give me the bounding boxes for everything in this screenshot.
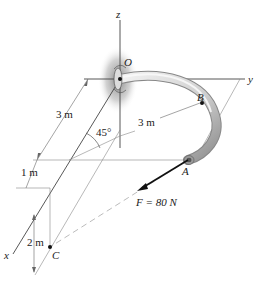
y-axis-label: y bbox=[247, 73, 253, 85]
force-label: F = 80 N bbox=[135, 196, 177, 208]
dimension-3m-x: 3 m bbox=[56, 108, 73, 120]
x-axis-label: x bbox=[3, 249, 9, 261]
point-c-label: C bbox=[52, 249, 60, 261]
radius-line-3m bbox=[160, 103, 200, 118]
point-o bbox=[118, 77, 122, 81]
dimension-1m: 1 m bbox=[21, 166, 38, 178]
point-b-label: B bbox=[197, 91, 204, 103]
dimension-2m: 2 m bbox=[27, 236, 44, 248]
pipe-force-diagram: z y x 3 m 1 m 2 m 45° 3 m O B A bbox=[0, 0, 270, 291]
point-o-label: O bbox=[124, 56, 132, 68]
point-a-label: A bbox=[181, 165, 189, 177]
angle-label: 45° bbox=[96, 126, 111, 138]
construction-line bbox=[120, 131, 135, 136]
z-axis-label: z bbox=[115, 8, 121, 20]
construction-line bbox=[35, 130, 120, 275]
arrowhead bbox=[32, 267, 36, 273]
force-arrowhead-icon bbox=[137, 183, 148, 191]
dimension-3m-radius: 3 m bbox=[138, 116, 155, 128]
